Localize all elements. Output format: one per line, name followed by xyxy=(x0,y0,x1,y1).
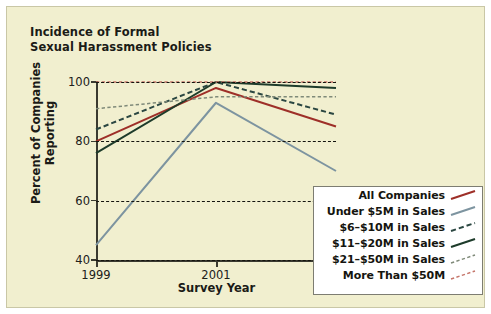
chart-figure: Incidence of Formal Sexual Harassment Po… xyxy=(0,0,491,314)
y-tick-mark xyxy=(91,259,96,261)
legend-item-label: All Companies xyxy=(358,189,445,202)
x-tick-label: 1999 xyxy=(74,268,118,282)
series-line xyxy=(96,82,336,153)
series-line xyxy=(96,103,336,245)
gridline xyxy=(96,141,336,142)
legend-swatch xyxy=(450,220,476,234)
legend-item-label: Under $5M in Sales xyxy=(327,205,445,218)
legend-swatch xyxy=(450,188,476,202)
x-tick-mark xyxy=(216,262,218,267)
legend-item[interactable]: $11–$20M in Sales xyxy=(314,235,482,251)
gridline xyxy=(96,82,336,83)
x-axis-title: Survey Year xyxy=(96,281,337,295)
legend-item-label: $21–$50M in Sales xyxy=(332,253,445,266)
legend-swatch xyxy=(450,204,476,218)
y-tick-mark xyxy=(91,81,96,83)
y-axis-title: Percent of Companies Reporting xyxy=(29,53,57,213)
legend-item-label: More Than $50M xyxy=(343,269,445,282)
legend-item[interactable]: $21–$50M in Sales xyxy=(314,251,482,267)
series-line xyxy=(96,88,336,141)
legend-item[interactable]: $6–$10M in Sales xyxy=(314,219,482,235)
legend-swatch xyxy=(450,268,476,282)
legend-item[interactable]: All Companies xyxy=(314,187,482,203)
x-tick-mark xyxy=(96,262,98,267)
plot-area xyxy=(96,82,336,260)
x-tick-label: 2001 xyxy=(194,268,238,282)
legend-swatch xyxy=(450,252,476,266)
series-lines xyxy=(96,82,336,260)
y-tick-mark xyxy=(91,141,96,143)
y-tick-label: 40 xyxy=(56,253,90,267)
y-tick-label: 100 xyxy=(56,75,90,89)
legend-swatch xyxy=(450,236,476,250)
legend-item-label: $6–$10M in Sales xyxy=(340,221,446,234)
figure-panel: Incidence of Formal Sexual Harassment Po… xyxy=(6,6,485,308)
y-axis-tick-labels: 100806040 xyxy=(52,82,90,260)
legend: All CompaniesUnder $5M in Sales$6–$10M i… xyxy=(313,186,483,295)
y-tick-label: 60 xyxy=(56,194,90,208)
legend-item-label: $11–$20M in Sales xyxy=(332,237,445,250)
y-tick-label: 80 xyxy=(56,134,90,148)
chart-title: Incidence of Formal Sexual Harassment Po… xyxy=(30,25,290,55)
y-tick-mark xyxy=(91,200,96,202)
gridline xyxy=(96,260,336,261)
legend-item[interactable]: Under $5M in Sales xyxy=(314,203,482,219)
legend-item[interactable]: More Than $50M xyxy=(314,267,482,283)
gridline xyxy=(96,201,336,202)
